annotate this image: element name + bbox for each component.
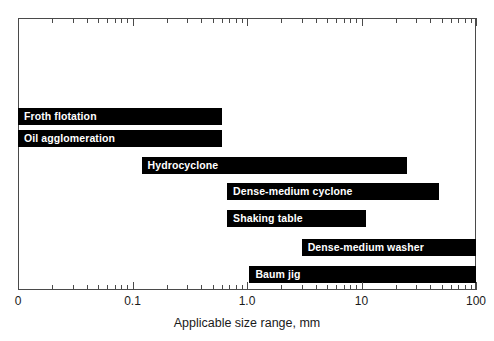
bar-hydrocyclone: Hydrocyclone [142,157,407,174]
minor-tick [236,285,237,290]
minor-tick [187,18,188,23]
minor-tick [442,285,443,290]
chart-root: Froth flotationOil agglomerationHydrocyc… [0,0,494,341]
minor-tick [430,18,431,23]
x-axis-title: Applicable size range, mm [0,316,494,330]
major-tick [133,282,134,290]
bar-label: Froth flotation [18,111,97,122]
minor-tick [213,18,214,23]
minor-tick [73,285,74,290]
major-tick [133,18,134,26]
minor-tick [213,285,214,290]
minor-tick [52,285,53,290]
minor-tick [281,18,282,23]
bar-label: Shaking table [227,213,303,224]
major-tick [362,18,363,26]
minor-tick [327,18,328,23]
bar-shaking-table: Shaking table [227,210,366,227]
minor-tick [416,285,417,290]
x-tick-label: 1.0 [239,294,256,308]
minor-tick [167,285,168,290]
minor-tick [242,285,243,290]
bar-baum-jig: Baum jig [249,266,476,283]
minor-tick [87,285,88,290]
minor-tick [167,18,168,23]
minor-tick [87,18,88,23]
minor-tick [336,18,337,23]
minor-tick [451,285,452,290]
bar-label: Baum jig [249,269,300,280]
minor-tick [396,285,397,290]
minor-tick [471,18,472,23]
major-tick [18,282,19,290]
minor-tick [242,18,243,23]
x-tick-label: 10 [355,294,368,308]
major-tick [476,282,477,290]
minor-tick [127,18,128,23]
minor-tick [430,285,431,290]
minor-tick [107,18,108,23]
minor-tick [281,285,282,290]
bar-froth-flotation: Froth flotation [18,108,222,125]
minor-tick [107,285,108,290]
minor-tick [115,285,116,290]
minor-tick [187,285,188,290]
minor-tick [344,285,345,290]
minor-tick [356,285,357,290]
major-tick [18,18,19,26]
minor-tick [471,285,472,290]
minor-tick [442,18,443,23]
bar-dense-medium-washer: Dense-medium washer [302,239,476,256]
minor-tick [458,285,459,290]
minor-tick [465,18,466,23]
minor-tick [127,285,128,290]
minor-tick [336,285,337,290]
minor-tick [115,18,116,23]
bar-label: Hydrocyclone [142,160,219,171]
minor-tick [350,285,351,290]
minor-tick [222,18,223,23]
bar-dense-medium-cyclone: Dense-medium cyclone [227,183,439,200]
minor-tick [396,18,397,23]
minor-tick [302,285,303,290]
minor-tick [344,18,345,23]
x-tick-label: 100 [466,294,486,308]
minor-tick [121,18,122,23]
minor-tick [201,285,202,290]
x-tick-label: 0.1 [124,294,141,308]
minor-tick [458,18,459,23]
minor-tick [356,18,357,23]
major-tick [476,18,477,26]
minor-tick [236,18,237,23]
bar-oil-agglomeration: Oil agglomeration [18,130,222,147]
minor-tick [350,18,351,23]
bar-label: Dense-medium washer [302,242,424,253]
minor-tick [316,18,317,23]
plot-area: Froth flotationOil agglomerationHydrocyc… [18,18,476,290]
minor-tick [98,18,99,23]
minor-tick [222,285,223,290]
minor-tick [73,18,74,23]
x-tick-label: 0 [15,294,22,308]
minor-tick [465,285,466,290]
minor-tick [302,18,303,23]
minor-tick [98,285,99,290]
minor-tick [229,285,230,290]
minor-tick [229,18,230,23]
minor-tick [316,285,317,290]
bar-label: Oil agglomeration [18,133,115,144]
major-tick [362,282,363,290]
minor-tick [52,18,53,23]
minor-tick [416,18,417,23]
minor-tick [121,285,122,290]
minor-tick [201,18,202,23]
major-tick [247,18,248,26]
minor-tick [451,18,452,23]
bar-label: Dense-medium cyclone [227,186,352,197]
major-tick [247,282,248,290]
minor-tick [327,285,328,290]
